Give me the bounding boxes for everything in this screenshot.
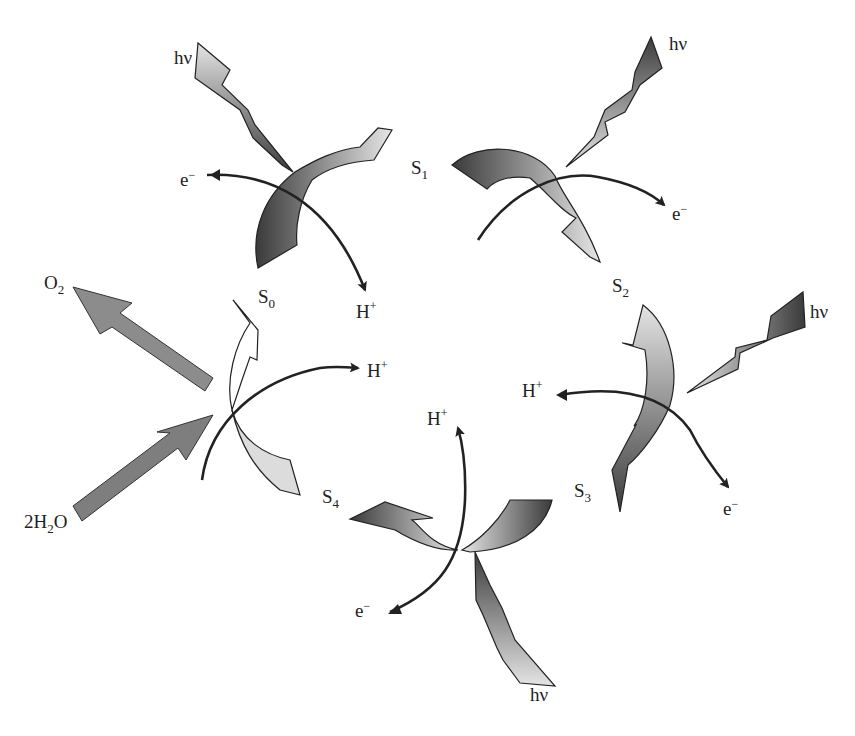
transition-s0-s1 [195,43,392,290]
electron-label: e− [180,168,195,190]
s-state-arrow-s4 [350,502,458,550]
proton-label: H+ [367,358,388,381]
s-state-arrow [462,500,552,552]
lightning-icon [566,37,662,167]
proton-label: H+ [356,299,377,322]
state-label-s4: S4 [322,486,340,511]
electron-label: e− [672,202,687,224]
labels: hν hν hν hν S1 S2 S3 S4 S0 e− e− e− e− H… [24,33,829,705]
lightning-icon [687,292,805,393]
electron-label: e− [723,497,738,519]
oxygen-label: O2 [44,272,64,297]
photon-label: hν [669,33,688,54]
state-label-s1: S1 [411,157,428,182]
state-label-s3: S3 [574,480,591,505]
s-state-arrow-s0 [230,300,258,410]
lightning-icon [475,552,555,686]
photon-label: hν [810,301,829,322]
proton-label: H+ [427,406,448,429]
transition-s2-s3 [556,292,805,512]
water-label: 2H2O [24,511,67,536]
s-state-arrow [612,305,674,512]
electron-label: e− [355,599,370,621]
lightning-icon [195,43,293,172]
state-label-s2: S2 [612,275,629,300]
kok-cycle-diagram: hν hν hν hν S1 S2 S3 S4 S0 e− e− e− e− H… [0,0,855,736]
water-input-arrow [73,415,213,521]
proton-label: H+ [522,378,543,401]
photon-label: hν [174,47,193,68]
photon-label: hν [530,684,549,705]
oxygen-release-arrow [73,287,213,391]
s-state-arrow [452,149,600,262]
s-state-arrow [256,128,392,268]
transition-s1-s2 [452,37,664,262]
transition-s4-s0 [73,287,358,521]
s-state-arrow-incoming [232,410,300,495]
state-label-s0: S0 [258,286,275,311]
transition-s3-s4 [350,428,555,686]
